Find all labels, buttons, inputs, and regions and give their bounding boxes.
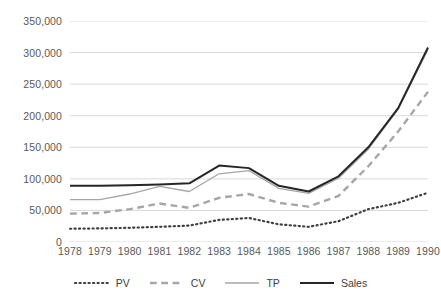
line-chart: 050,000100,000150,000200,000250,000300,0… [0,0,441,299]
y-tick-label: 150,000 [23,142,62,153]
x-tick-label: 1979 [88,246,112,257]
x-tick-label: 1989 [386,246,410,257]
legend-swatch-tp [224,278,260,288]
x-tick-label: 1981 [148,246,172,257]
series-line-sales [70,48,428,192]
legend-label: TP [266,278,279,289]
legend-item-cv[interactable]: CV [149,278,206,289]
y-tick-label: 300,000 [23,47,62,58]
y-axis: 050,000100,000150,000200,000250,000300,0… [0,0,66,263]
legend-item-tp[interactable]: TP [224,278,279,289]
x-tick-label: 1983 [207,246,231,257]
x-tick-label: 1987 [327,246,351,257]
legend-label: PV [116,278,130,289]
x-tick-label: 1980 [118,246,142,257]
x-tick-label: 1988 [356,246,380,257]
x-tick-label: 1986 [297,246,321,257]
y-tick-label: 350,000 [23,16,62,27]
x-tick-label: 1990 [416,246,440,257]
series-line-pv [70,193,428,229]
legend-item-sales[interactable]: Sales [299,278,367,289]
chart-legend: PVCVTPSales [0,272,441,294]
x-axis: 1978197919801981198219831984198519861987… [70,246,428,262]
series-layer [70,21,428,242]
y-tick-label: 250,000 [23,79,62,90]
y-tick-label: 50,000 [29,205,62,216]
legend-label: Sales [341,278,367,289]
plot-area [70,21,428,242]
x-tick-label: 1985 [267,246,291,257]
x-tick-label: 1982 [177,246,201,257]
y-tick-label: 200,000 [23,110,62,121]
series-line-tp [70,49,428,199]
legend-swatch-cv [149,278,185,288]
legend-label: CV [191,278,206,289]
x-tick-label: 1984 [237,246,261,257]
legend-swatch-sales [299,278,335,288]
x-tick-label: 1978 [58,246,82,257]
legend-item-pv[interactable]: PV [74,278,130,289]
legend-swatch-pv [74,278,110,288]
y-tick-label: 100,000 [23,174,62,185]
